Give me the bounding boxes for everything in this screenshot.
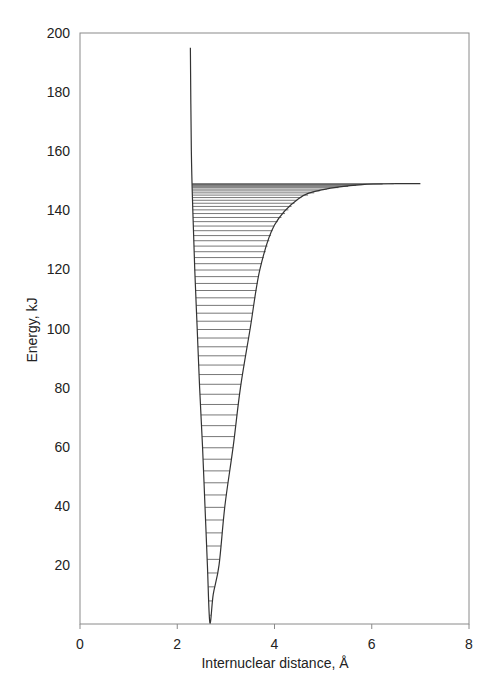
x-tick-label: 8 [465,636,473,652]
potential-curve [190,48,420,623]
y-tick-label: 180 [47,84,71,100]
x-axis-title: Internuclear distance, Å [201,655,349,671]
x-tick-label: 2 [173,636,181,652]
x-tick-label: 6 [368,636,376,652]
y-tick-label: 60 [54,439,70,455]
x-tick-label: 4 [271,636,279,652]
y-tick-label: 80 [54,380,70,396]
y-tick-label: 140 [47,202,71,218]
plot-frame [80,33,469,624]
x-axis-ticks: 02468 [76,624,473,652]
potential-energy-chart: 02468 20406080100120140160180200 Internu… [0,0,499,691]
y-tick-label: 100 [47,321,71,337]
y-tick-label: 120 [47,261,71,277]
vibrational-levels [192,184,394,615]
x-tick-label: 0 [76,636,84,652]
y-tick-label: 40 [54,498,70,514]
y-tick-label: 20 [54,557,70,573]
y-tick-label: 200 [47,25,71,41]
y-tick-label: 160 [47,143,71,159]
y-axis-title: Energy, kJ [24,297,40,362]
y-axis-ticks: 20406080100120140160180200 [47,25,71,573]
